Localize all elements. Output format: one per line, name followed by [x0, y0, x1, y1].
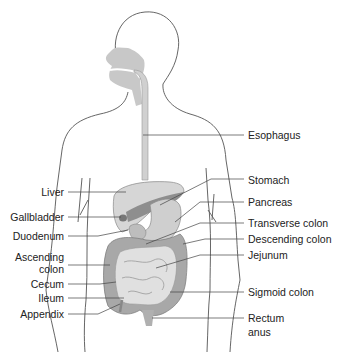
- label-appendix: Appendix: [0, 308, 64, 320]
- label-transverse-colon: Transverse colon: [248, 217, 328, 229]
- label-stomach: Stomach: [248, 174, 289, 186]
- label-ascending-colon: Ascending: [0, 251, 64, 263]
- label-descending-colon: Descending colon: [248, 233, 331, 245]
- label-jejunum: Jejunum: [248, 249, 288, 261]
- label-gallbladder: Gallbladder: [0, 211, 64, 223]
- label-duodenum: Duodenum: [0, 230, 64, 242]
- label-rectum: Rectum: [248, 312, 284, 324]
- label-anus: anus: [248, 326, 271, 338]
- label-ileum: Ileum: [0, 292, 64, 304]
- gallbladder-shape: [119, 215, 127, 222]
- head-cavity: [106, 48, 145, 107]
- label-sigmoid-colon: Sigmoid colon: [248, 286, 314, 298]
- label-esophagus: Esophagus: [248, 129, 301, 141]
- label-liver: Liver: [0, 186, 64, 198]
- label-cecum: Cecum: [0, 278, 64, 290]
- label-ascending-colon-2: colon: [0, 263, 64, 275]
- label-pancreas: Pancreas: [248, 196, 292, 208]
